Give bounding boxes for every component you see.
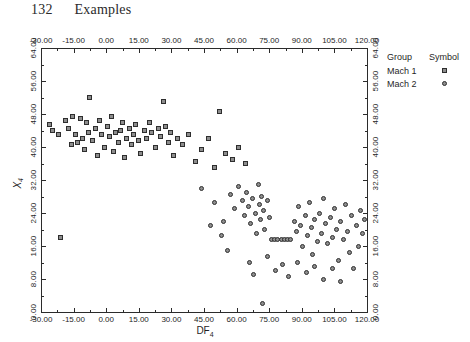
y-tick-minor-right	[365, 263, 368, 264]
data-point-circle	[256, 182, 261, 187]
x-tick-bottom	[139, 308, 140, 313]
x-tick-label-top: 45.00	[194, 36, 214, 45]
x-tick-bottom	[237, 308, 238, 313]
data-point-circle	[219, 233, 224, 238]
data-point-circle	[262, 227, 267, 232]
data-point-square	[223, 151, 228, 156]
y-tick-minor-left	[41, 296, 44, 297]
data-point-circle	[212, 200, 217, 205]
data-point-circle	[280, 262, 285, 267]
x-tick-label-top: 15.00	[129, 36, 149, 45]
data-point-square	[149, 130, 154, 135]
x-tick-bottom	[106, 308, 107, 313]
data-point-square	[56, 132, 61, 137]
y-axis-label-subscript: 4	[17, 178, 24, 182]
x-tick-label-top: 0.00	[98, 36, 114, 45]
y-tick-minor-right	[365, 164, 368, 165]
y-tick-right	[363, 114, 368, 115]
data-point-circle	[328, 215, 333, 220]
x-tick-minor-top	[253, 48, 254, 51]
legend: Group Symbol Mach 1Mach 2	[387, 52, 459, 91]
y-tick-left	[41, 48, 46, 49]
y-tick-label-right: 0.00	[371, 304, 380, 320]
data-point-square	[144, 136, 149, 141]
y-tick-left	[41, 279, 46, 280]
y-tick-right	[363, 48, 368, 49]
data-point-circle	[317, 211, 322, 216]
data-point-circle	[336, 258, 341, 263]
data-point-circle	[298, 223, 303, 228]
x-tick-minor-bottom	[57, 310, 58, 313]
data-point-circle	[232, 206, 237, 211]
legend-symbol-cell	[429, 81, 459, 86]
data-point-square	[120, 120, 125, 125]
y-tick-left	[41, 312, 46, 313]
x-tick-minor-bottom	[155, 310, 156, 313]
data-point-circle	[257, 202, 262, 207]
data-point-circle	[356, 244, 361, 249]
data-point-circle	[321, 277, 326, 282]
x-tick-label-top: 30.00	[161, 36, 181, 45]
x-tick-top	[139, 48, 140, 53]
y-tick-right	[363, 180, 368, 181]
data-point-square	[243, 161, 248, 166]
legend-header-group: Group	[387, 52, 429, 62]
y-tick-label-right: 64.00	[371, 37, 380, 58]
legend-header-symbol: Symbol	[429, 52, 459, 62]
x-tick-label-bottom: 0.00	[98, 315, 114, 324]
data-point-square	[193, 159, 198, 164]
x-axis-label-subscript: 4	[210, 331, 214, 338]
data-point-square	[107, 134, 112, 139]
x-tick-minor-bottom	[188, 310, 189, 313]
data-point-circle	[228, 192, 233, 197]
x-tick-label-bottom: 15.00	[129, 315, 149, 324]
data-point-square	[63, 118, 68, 123]
data-point-circle	[199, 186, 204, 191]
x-axis-label-base: DF	[196, 325, 209, 336]
x-tick-label-bottom: 30.00	[161, 315, 181, 324]
data-point-circle	[253, 211, 258, 216]
data-point-square	[116, 140, 121, 145]
y-tick-minor-left	[41, 65, 44, 66]
legend-symbol-cell	[429, 68, 459, 73]
data-point-square	[186, 132, 191, 137]
y-tick-label-left: 32.00	[29, 169, 38, 190]
x-tick-top	[74, 48, 75, 53]
y-tick-right	[363, 213, 368, 214]
y-tick-left	[41, 81, 46, 82]
y-tick-label-right: 40.00	[371, 136, 380, 157]
legend-circle-icon	[442, 81, 447, 86]
y-tick-right	[363, 312, 368, 313]
data-point-square	[236, 145, 241, 150]
x-tick-minor-top	[57, 48, 58, 51]
x-tick-label-bottom: 60.00	[227, 315, 247, 324]
y-tick-minor-right	[365, 296, 368, 297]
data-point-circle	[345, 229, 350, 234]
legend-series-label: Mach 1	[387, 66, 429, 76]
data-point-circle	[265, 198, 270, 203]
data-point-square	[99, 132, 104, 137]
data-point-circle	[347, 250, 352, 255]
data-point-square	[50, 128, 55, 133]
y-tick-label-right: 8.00	[371, 271, 380, 287]
y-tick-label-right: 24.00	[371, 202, 380, 223]
data-point-circle	[312, 264, 317, 269]
data-point-square	[73, 132, 78, 137]
y-tick-minor-left	[41, 131, 44, 132]
data-point-square	[131, 132, 136, 137]
x-tick-label-bottom: 90.00	[292, 315, 312, 324]
y-tick-label-left: 48.00	[29, 103, 38, 124]
data-point-circle	[240, 198, 245, 203]
legend-rows: Mach 1Mach 2	[387, 65, 459, 89]
y-tick-label-right: 56.00	[371, 70, 380, 91]
x-tick-top	[302, 48, 303, 53]
y-tick-label-left: 8.00	[29, 271, 38, 287]
x-tick-bottom	[269, 308, 270, 313]
data-point-square	[70, 114, 75, 119]
data-point-square	[122, 155, 127, 160]
data-point-circle	[261, 208, 266, 213]
data-point-square	[180, 142, 185, 147]
y-tick-minor-right	[365, 230, 368, 231]
data-point-square	[69, 142, 74, 147]
data-point-square	[168, 130, 173, 135]
